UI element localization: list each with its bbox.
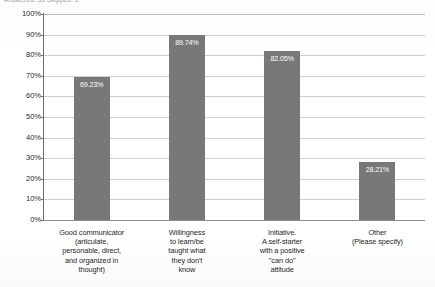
bar[interactable]: 69.23% — [74, 77, 110, 220]
bar-value-label: 82.05% — [264, 55, 300, 63]
y-axis-tick-label: 70% — [3, 72, 41, 80]
x-axis-category-label: Initiative. A self-starter with a positi… — [238, 228, 327, 274]
bar-chart: Answered: 39 Skipped: 1 100%90%80%70%60%… — [0, 0, 435, 287]
y-axis: 100%90%80%70%60%50%40%30%20%10%0% — [0, 0, 41, 287]
bar-value-label: 89.74% — [169, 39, 205, 47]
y-axis-tick-label: 60% — [3, 92, 41, 100]
bar-value-label: 28.21% — [359, 166, 395, 174]
x-axis-category-label: Willingness to learn/be taught what they… — [142, 228, 231, 274]
bar-value-label: 69.23% — [74, 81, 110, 89]
y-axis-tick-label: 40% — [3, 134, 41, 142]
y-axis-tick-label: 100% — [3, 10, 41, 18]
gridline — [44, 55, 425, 56]
gridline — [44, 220, 425, 221]
gridline — [44, 14, 425, 15]
x-axis-category-label: Other (Please specify) — [333, 228, 422, 246]
plot-area: 69.23%89.74%82.05%28.21% — [44, 14, 425, 220]
y-axis-tick-label: 20% — [3, 175, 41, 183]
y-axis-tick-label: 0% — [3, 216, 41, 224]
y-axis-tick-label: 50% — [3, 113, 41, 121]
bar[interactable]: 89.74% — [169, 35, 205, 220]
y-axis-tick-label: 30% — [3, 154, 41, 162]
bar[interactable]: 28.21% — [359, 162, 395, 220]
x-axis-category-label: Good communicator (articulate, personabl… — [47, 228, 136, 274]
bar[interactable]: 82.05% — [264, 51, 300, 220]
y-axis-tick-label: 10% — [3, 195, 41, 203]
y-axis-tick-label: 90% — [3, 31, 41, 39]
y-axis-tick-label: 80% — [3, 51, 41, 59]
gridline — [44, 35, 425, 36]
